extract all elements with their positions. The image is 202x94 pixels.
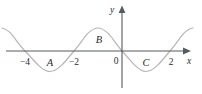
x-axis-label: x bbox=[186, 56, 192, 66]
x-tick-label-minus-2: −2 bbox=[69, 57, 79, 67]
math-figure-sine-wave: y x −4 −2 0 2 A B C bbox=[0, 0, 202, 94]
x-axis-arrow bbox=[183, 48, 191, 55]
region-label-a: A bbox=[46, 57, 54, 68]
x-tick-label-2: 2 bbox=[169, 57, 174, 67]
region-label-c: C bbox=[142, 57, 150, 68]
y-axis-label: y bbox=[109, 5, 115, 15]
x-tick-label-minus-4: −4 bbox=[20, 57, 30, 67]
region-label-b: B bbox=[96, 34, 103, 45]
y-axis-arrow bbox=[119, 6, 126, 14]
x-tick-label-zero: 0 bbox=[114, 56, 119, 66]
figure-canvas: y x −4 −2 0 2 A B C bbox=[0, 0, 202, 94]
